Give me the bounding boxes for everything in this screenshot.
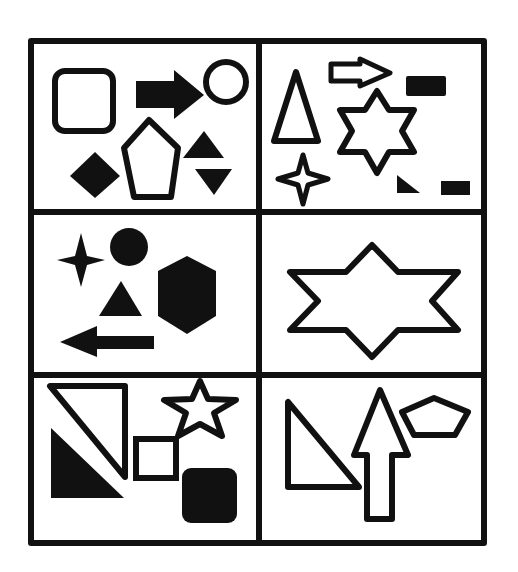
outline-pentagon-shape	[124, 120, 178, 197]
filled-left-arrow-shape	[60, 326, 154, 357]
cell-r1c1	[55, 62, 246, 198]
filled-small-rectangle-shape	[441, 181, 470, 195]
cell-r3c1	[50, 381, 237, 523]
filled-diamond-shape	[70, 152, 120, 198]
outline-five-point-star-shape	[164, 381, 236, 436]
filled-triangle-down-shape	[195, 169, 232, 195]
cell-r3c2	[288, 390, 468, 519]
outline-right-arrow-shape	[331, 59, 390, 86]
filled-rounded-square-shape	[182, 468, 237, 523]
outline-wide-six-point-star-shape	[290, 245, 458, 357]
filled-circle-shape	[110, 228, 148, 266]
cell-r2c2	[290, 245, 458, 357]
outline-four-point-star-shape	[278, 155, 328, 204]
outline-six-point-star-shape	[340, 91, 414, 173]
cell-r2c1	[57, 228, 216, 357]
outline-circle-shape	[206, 62, 246, 102]
outline-pentagon-shape	[402, 398, 468, 435]
cell-r1c2	[274, 59, 470, 204]
shape-grid-figure	[0, 0, 518, 572]
filled-four-point-star-shape	[57, 233, 105, 287]
outline-square-shape	[136, 439, 176, 478]
outline-rounded-square-shape	[55, 71, 113, 131]
outline-right-triangle-shape	[288, 402, 359, 487]
filled-right-triangle-shape	[397, 175, 420, 193]
filled-rectangle-shape	[406, 76, 446, 96]
filled-triangle-shape	[99, 281, 142, 316]
outline-tall-triangle-shape	[274, 72, 318, 141]
filled-triangle-up-shape	[183, 131, 224, 158]
filled-right-arrow-shape	[136, 70, 204, 119]
filled-hexagon-shape	[158, 256, 216, 334]
outline-up-arrow-shape	[354, 390, 408, 519]
